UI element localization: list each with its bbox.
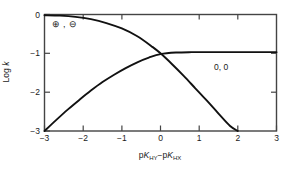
x-tick-label-1: −2 [78, 134, 88, 143]
plot-frame [45, 15, 277, 132]
x-axis-label-sub1: HY [149, 155, 157, 161]
annotation-neutral-pair: 0, 0 [214, 62, 228, 72]
x-tick-label-3: 0 [158, 134, 163, 143]
y-axis-label: Log k [1, 62, 11, 83]
y-axis-label-prefix: Log [1, 66, 11, 83]
x-axis-label-sub2: HX [173, 155, 181, 161]
curve-neutral-pair [45, 52, 277, 131]
y-axis-ticks [45, 15, 277, 132]
x-axis-ticks [45, 15, 277, 132]
curve-charged-pair [45, 15, 238, 131]
x-tick-label-6: 3 [274, 134, 279, 143]
chart-figure: ⊕ , ⊖ 0, 0 Log k pKHY−pKHX −3 −2 −1 0 1 … [0, 0, 295, 169]
y-tick-label-1: −1 [26, 49, 40, 58]
y-tick-label-2: −2 [26, 88, 40, 97]
y-axis-label-symbol: k [1, 62, 11, 66]
plot-canvas [0, 0, 295, 169]
x-tick-label-2: −1 [117, 134, 127, 143]
x-tick-label-4: 1 [197, 134, 202, 143]
x-tick-label-0: −3 [40, 134, 50, 143]
x-tick-label-5: 2 [235, 134, 240, 143]
legend-charged-pair: ⊕ , ⊖ [52, 19, 77, 29]
y-tick-label-3: −3 [26, 127, 40, 136]
x-axis-label: pKHY−pKHX [139, 150, 181, 160]
y-tick-label-0: 0 [26, 10, 40, 19]
